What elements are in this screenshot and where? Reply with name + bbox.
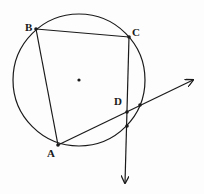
label-c: C xyxy=(132,26,140,38)
point-a xyxy=(56,143,60,147)
point-b xyxy=(34,27,38,31)
intersection-dot xyxy=(125,124,129,128)
point-c xyxy=(127,35,131,39)
segment-bc xyxy=(36,29,129,37)
label-d: D xyxy=(114,95,122,107)
segment-ab xyxy=(36,29,58,145)
point-d xyxy=(125,110,129,114)
circle-center-dot xyxy=(77,78,80,81)
intersection-dot xyxy=(138,103,142,107)
ray-cd xyxy=(125,37,129,183)
geometry-figure: A B C D xyxy=(0,0,204,194)
diagram-canvas: A B C D xyxy=(0,0,204,194)
label-b: B xyxy=(25,21,33,33)
label-a: A xyxy=(47,147,55,159)
